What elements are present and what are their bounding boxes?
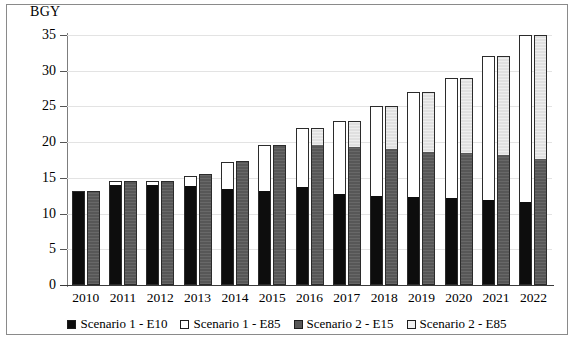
- bar-segment-scenario-1-e85: [520, 36, 531, 202]
- y-axis-tick: [60, 178, 67, 179]
- bar-group: [67, 35, 104, 285]
- bar-segment-scenario-2-e15: [312, 145, 323, 284]
- bar-group: [291, 35, 328, 285]
- bar-group: [477, 35, 514, 285]
- bar-scenario-1[interactable]: [519, 35, 532, 285]
- bar-scenario-2[interactable]: [124, 181, 137, 285]
- bar-scenario-1[interactable]: [146, 181, 159, 285]
- y-axis-tick: [60, 35, 67, 36]
- legend-item-label: Scenario 2 - E15: [307, 316, 394, 332]
- bar-scenario-2[interactable]: [273, 145, 286, 285]
- bar-segment-scenario-2-e15: [498, 155, 509, 284]
- white-square-icon: [180, 320, 189, 329]
- y-axis-tick: [60, 249, 67, 250]
- bar-segment-scenario-1-e10: [334, 194, 345, 284]
- x-axis-line: [60, 285, 554, 286]
- legend-item[interactable]: Scenario 2 - E15: [294, 316, 394, 332]
- x-axis-label: 2013: [179, 288, 216, 308]
- x-axis-label: 2018: [366, 288, 403, 308]
- bar-segment-scenario-1-e85: [408, 93, 419, 197]
- bar-segment-scenario-1-e85: [371, 107, 382, 195]
- bar-segment-scenario-2-e15: [423, 152, 434, 284]
- bar-scenario-2[interactable]: [87, 191, 100, 285]
- x-axis-category-labels: 2010201120122013201420152016201720182019…: [67, 288, 552, 308]
- bar-scenario-2[interactable]: [348, 121, 361, 285]
- bar-segment-scenario-1-e85: [483, 57, 494, 199]
- bar-scenario-1[interactable]: [296, 128, 309, 285]
- bar-segment-scenario-2-e15: [162, 182, 173, 284]
- legend-item-label: Scenario 2 - E85: [420, 316, 507, 332]
- bar-scenario-2[interactable]: [422, 92, 435, 285]
- y-axis-tick: [60, 71, 67, 72]
- legend-item[interactable]: Scenario 1 - E85: [180, 316, 280, 332]
- bar-scenario-1[interactable]: [482, 56, 495, 285]
- bar-scenario-1[interactable]: [445, 78, 458, 285]
- bar-scenario-1[interactable]: [407, 92, 420, 285]
- bar-segment-scenario-1-e10: [408, 197, 419, 284]
- x-axis-label: 2015: [254, 288, 291, 308]
- bar-scenario-2[interactable]: [497, 56, 510, 285]
- bar-segment-scenario-2-e15: [274, 146, 285, 284]
- bar-group: [403, 35, 440, 285]
- bar-segment-scenario-1-e10: [185, 186, 196, 284]
- legend-item[interactable]: Scenario 1 - E10: [67, 316, 167, 332]
- bar-groups: [67, 35, 552, 285]
- gray-square-icon: [294, 320, 303, 329]
- bar-segment-scenario-1-e85: [297, 129, 308, 188]
- bar-group: [515, 35, 552, 285]
- x-axis-label: 2017: [328, 288, 365, 308]
- bar-scenario-2[interactable]: [311, 128, 324, 285]
- x-axis-label: 2021: [477, 288, 514, 308]
- bar-segment-scenario-1-e85: [446, 79, 457, 199]
- chart-container: BGY 05101520253035 201020112012201320142…: [0, 0, 574, 339]
- bar-segment-scenario-1-e10: [520, 202, 531, 284]
- bar-segment-scenario-2-e15: [535, 159, 546, 284]
- bar-group: [104, 35, 141, 285]
- x-axis-label: 2020: [440, 288, 477, 308]
- bar-scenario-2[interactable]: [534, 35, 547, 285]
- x-axis-label: 2019: [403, 288, 440, 308]
- bar-segment-scenario-2-e85: [349, 122, 360, 147]
- chart-legend: Scenario 1 - E10Scenario 1 - E85Scenario…: [6, 316, 568, 332]
- legend-item-label: Scenario 1 - E10: [80, 316, 167, 332]
- bar-scenario-1[interactable]: [221, 162, 234, 285]
- bar-scenario-1[interactable]: [370, 106, 383, 285]
- bar-segment-scenario-1-e10: [110, 185, 121, 284]
- x-axis-label: 2011: [104, 288, 141, 308]
- bar-segment-scenario-2-e85: [535, 36, 546, 159]
- bar-segment-scenario-1-e85: [334, 122, 345, 194]
- bar-segment-scenario-1-e10: [371, 196, 382, 284]
- x-axis-label: 2014: [216, 288, 253, 308]
- bar-segment-scenario-1-e85: [222, 163, 233, 189]
- bar-segment-scenario-2-e15: [200, 175, 211, 284]
- bar-segment-scenario-1-e85: [259, 146, 270, 191]
- bar-scenario-2[interactable]: [199, 174, 212, 285]
- bar-group: [142, 35, 179, 285]
- y-axis-tick: [60, 106, 67, 107]
- x-axis-label: 2016: [291, 288, 328, 308]
- bar-segment-scenario-1-e10: [483, 200, 494, 284]
- bar-group: [366, 35, 403, 285]
- bar-segment-scenario-2-e85: [423, 93, 434, 152]
- bar-scenario-1[interactable]: [258, 145, 271, 285]
- bar-segment-scenario-2-e15: [349, 147, 360, 284]
- bar-segment-scenario-2-e15: [461, 153, 472, 284]
- bar-segment-scenario-2-e15: [386, 149, 397, 284]
- legend-item[interactable]: Scenario 2 - E85: [407, 316, 507, 332]
- bar-scenario-1[interactable]: [333, 121, 346, 285]
- bar-segment-scenario-2-e85: [461, 79, 472, 153]
- bar-scenario-2[interactable]: [161, 181, 174, 285]
- bar-segment-scenario-1-e10: [73, 192, 84, 284]
- bar-scenario-2[interactable]: [385, 106, 398, 285]
- bar-scenario-1[interactable]: [184, 176, 197, 285]
- bar-segment-scenario-1-e10: [222, 189, 233, 284]
- bar-scenario-1[interactable]: [72, 191, 85, 285]
- bar-segment-scenario-1-e85: [185, 177, 196, 186]
- bar-segment-scenario-2-e85: [386, 107, 397, 149]
- bar-segment-scenario-2-e85: [312, 129, 323, 145]
- bar-scenario-2[interactable]: [460, 78, 473, 285]
- bar-scenario-1[interactable]: [109, 181, 122, 285]
- bar-scenario-2[interactable]: [236, 161, 249, 285]
- x-axis-label: 2022: [515, 288, 552, 308]
- bar-segment-scenario-1-e10: [297, 187, 308, 284]
